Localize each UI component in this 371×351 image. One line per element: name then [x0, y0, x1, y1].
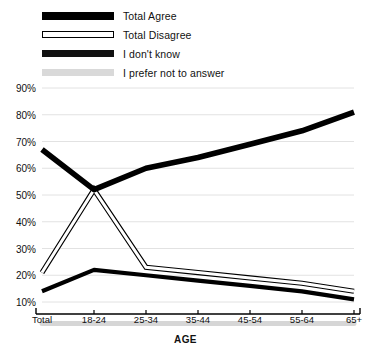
chart-legend: Total Agree Total Disagree I don't know …	[42, 6, 224, 82]
legend-item-total-disagree: Total Disagree	[42, 25, 224, 44]
x-axis-tick-label: 25-34	[134, 314, 158, 325]
legend-swatch-total-disagree-icon	[42, 31, 114, 38]
legend-label-i-dont-know: I don't know	[123, 48, 180, 60]
x-axis-tick-label: 18-24	[82, 314, 106, 325]
x-axis-tick-label: 55-64	[290, 314, 314, 325]
series-line-total-agree	[42, 112, 354, 190]
chart-canvas	[0, 78, 371, 351]
series-line-total-disagree	[42, 190, 354, 292]
legend-swatch-i-dont-know-icon	[42, 50, 114, 57]
legend-swatch-i-prefer-not-to-answer-icon	[42, 69, 114, 76]
legend-label-i-prefer-not-to-answer: I prefer not to answer	[123, 67, 224, 79]
x-axis-tick-label: 65+	[346, 314, 362, 325]
chart-figure: Total Agree Total Disagree I don't know …	[0, 0, 371, 351]
x-axis-title: AGE	[0, 334, 371, 345]
series-line-total-disagree-outline	[42, 190, 354, 292]
legend-item-total-agree: Total Agree	[42, 6, 224, 25]
x-axis-tick-labels: Total18-2425-3435-4445-5455-6465+	[40, 314, 368, 334]
legend-item-i-dont-know: I don't know	[42, 44, 224, 63]
legend-label-total-agree: Total Agree	[123, 10, 177, 22]
legend-swatch-total-agree-icon	[42, 12, 114, 20]
x-axis-tick-label: 45-54	[238, 314, 262, 325]
x-axis-tick-label: Total	[32, 314, 52, 325]
x-axis-tick-label: 35-44	[186, 314, 210, 325]
legend-label-total-disagree: Total Disagree	[123, 29, 192, 41]
chart-plot-area: 90%80%70%60%50%40%30%20%10% Total18-2425…	[0, 78, 371, 351]
